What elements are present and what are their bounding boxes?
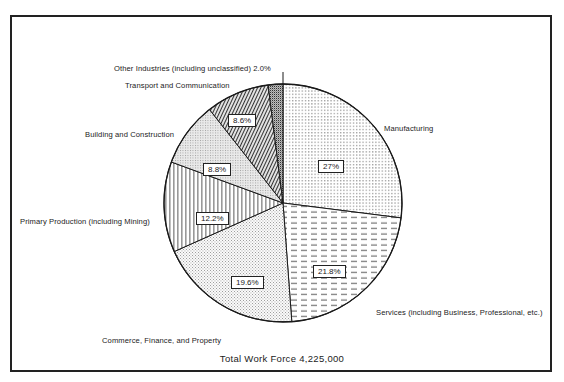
pct-box-building: 8.8% bbox=[203, 163, 231, 176]
pct-box-transport: 8.6% bbox=[228, 114, 256, 127]
pct-box-commerce: 19.6% bbox=[231, 276, 264, 289]
slice-services bbox=[283, 203, 401, 322]
chart-footer-total: Total Work Force 4,225,000 bbox=[0, 353, 564, 364]
pct-box-primary: 12.2% bbox=[196, 212, 229, 225]
label-primary-production: Primary Production (including Mining) bbox=[20, 217, 150, 226]
pie-chart bbox=[0, 0, 564, 382]
pct-box-services: 21.8% bbox=[313, 265, 346, 278]
label-transport: Transport and Communication bbox=[125, 81, 230, 90]
label-building: Building and Construction bbox=[85, 130, 174, 139]
label-services: Services (including Business, Profession… bbox=[376, 308, 543, 317]
label-other-industries: Other Industries (including unclassified… bbox=[114, 64, 271, 73]
label-commerce: Commerce, Finance, and Property bbox=[102, 336, 221, 345]
label-manufacturing: Manufacturing bbox=[384, 124, 433, 133]
slice-manufacturing bbox=[283, 84, 402, 218]
pct-box-manufacturing: 27% bbox=[318, 160, 344, 173]
